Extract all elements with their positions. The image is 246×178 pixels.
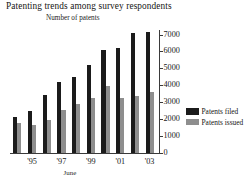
legend-swatch [186,108,199,115]
bar-group [98,30,113,153]
y-tick-mark [160,102,163,103]
x-axis-title: June [64,169,77,177]
y-tick-label: 5000 [164,63,180,72]
legend-item: Patents filed [186,107,244,116]
bar-group [25,30,40,153]
y-tick-label: 2000 [164,114,180,123]
y-tick-label: 7000 [164,30,180,39]
x-tick-label: '01 [115,157,125,166]
legend-label: Patents filed [202,107,239,116]
y-tick-mark [160,68,163,69]
legend-item: Patents issued [186,118,244,127]
y-tick-mark [160,136,163,137]
bar-series-container [10,30,157,153]
bar-group [10,30,25,153]
y-tick-label: 1000 [164,131,180,140]
bar-group [128,30,143,153]
bar-issued [106,86,110,153]
y-tick-mark [160,35,163,36]
bar-issued [47,120,51,153]
y-tick-mark [160,119,163,120]
x-tick-label: '03 [145,157,155,166]
bar-group [142,30,157,153]
y-axis-label: Number of patents [46,14,100,22]
y-tick-mark [160,153,163,154]
bar-group [39,30,54,153]
bar-issued [135,96,139,153]
chart-title: Patenting trends among survey respondent… [6,1,172,11]
bar-group [69,30,84,153]
y-tick-label: 4000 [164,80,180,89]
bar-issued [61,110,65,153]
x-tick-label: '97 [57,157,67,166]
y-tick-label: 6000 [164,46,180,55]
bar-issued [91,98,95,153]
bar-issued [76,104,80,153]
x-tick-label: '95 [27,157,37,166]
y-axis-ticks: 01000200030004000500060007000 [160,30,200,153]
bar-issued [32,125,36,153]
chart-figure: Patenting trends among survey respondent… [0,0,246,178]
bar-group [54,30,69,153]
legend-label: Patents issued [202,118,244,127]
bar-issued [120,98,124,153]
y-tick-mark [160,85,163,86]
y-tick-label: 0 [164,148,168,157]
chart-legend: Patents filedPatents issued [186,107,244,128]
bar-group [113,30,128,153]
plot-area [10,30,157,153]
bar-group [84,30,99,153]
bar-issued [150,92,154,154]
bar-issued [17,123,21,153]
y-tick-mark [160,51,163,52]
x-tick-label: '99 [86,157,96,166]
legend-swatch [186,119,199,126]
x-axis-ticks: '95'97'99'01'03 [10,153,157,167]
y-tick-label: 3000 [164,97,180,106]
